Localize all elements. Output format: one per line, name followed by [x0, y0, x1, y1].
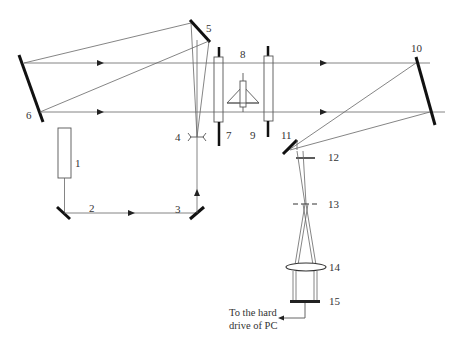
- arrow-right: [128, 210, 135, 216]
- cell-9: [264, 56, 273, 121]
- output-connector: [284, 303, 305, 318]
- label-4: 4: [175, 131, 181, 143]
- label-1: 1: [75, 157, 81, 169]
- label-13: 13: [328, 198, 340, 210]
- label-14: 14: [329, 261, 341, 273]
- lens-14: [286, 263, 326, 271]
- caption-line-1: To the hard: [229, 307, 277, 318]
- label-12: 12: [328, 151, 339, 163]
- label-2: 2: [89, 202, 95, 214]
- label-7: 7: [226, 129, 232, 141]
- laser-source: [58, 128, 71, 178]
- caption-line-2: drive of PC: [229, 320, 277, 331]
- label-9: 9: [250, 129, 256, 141]
- label-15: 15: [329, 295, 341, 307]
- label-8: 8: [240, 48, 246, 60]
- label-3: 3: [175, 203, 181, 215]
- optical-diagram: 1 2 3 4 5 6 7 8 9 10 11 12 13 14 15 To t…: [0, 0, 454, 348]
- label-10: 10: [411, 42, 423, 54]
- arrow-up: [194, 189, 200, 196]
- detector-15: [290, 300, 320, 303]
- label-6: 6: [26, 109, 32, 121]
- mirror-11: [283, 140, 297, 154]
- label-11: 11: [281, 129, 292, 141]
- label-5: 5: [206, 22, 212, 34]
